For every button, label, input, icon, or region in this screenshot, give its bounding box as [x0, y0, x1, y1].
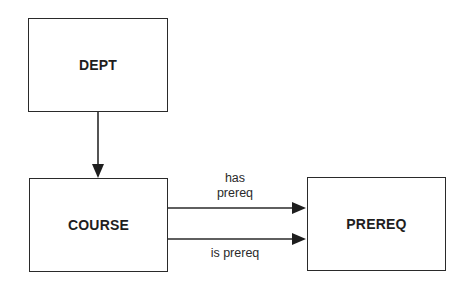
dept-to-course-arrow [92, 112, 104, 178]
is-prereq-label: is prereq [190, 246, 280, 261]
has-prereq-label: has prereq [200, 171, 270, 201]
has-prereq-arrow [168, 202, 306, 214]
has-prereq-line1: has [200, 171, 270, 186]
has-prereq-line2: prereq [200, 186, 270, 201]
is-prereq-arrow [168, 233, 306, 245]
